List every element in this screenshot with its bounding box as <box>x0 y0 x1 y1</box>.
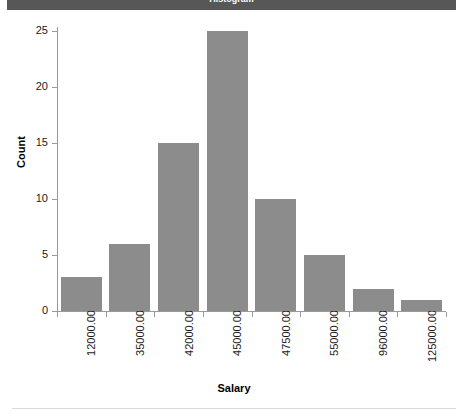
histogram-bar <box>353 289 394 311</box>
x-tick-label: 47500.00 <box>281 310 292 380</box>
x-axis-title: Salary <box>0 382 468 394</box>
x-tick-label: 45000.00 <box>232 310 243 380</box>
x-tick-mark <box>300 312 301 317</box>
histogram-bar <box>109 244 150 311</box>
y-tick-label: 10 <box>18 193 48 204</box>
histogram-bar <box>207 31 248 311</box>
chart-title: Histogram <box>7 0 456 4</box>
histogram-bar <box>304 255 345 311</box>
y-tick-label: 20 <box>18 81 48 92</box>
chart-header-bar: Histogram <box>7 0 456 10</box>
x-tick-label: 125000.00 <box>427 310 438 380</box>
x-tick-mark <box>446 312 447 317</box>
y-axis-title: Count <box>15 122 27 182</box>
y-tick-label: 25 <box>18 25 48 36</box>
histogram-bar <box>255 199 296 311</box>
plot-area <box>57 31 446 311</box>
histogram-bar <box>401 300 442 311</box>
x-tick-label: 96000.00 <box>378 310 389 380</box>
x-tick-label: 42000.00 <box>184 310 195 380</box>
histogram-chart: 0510152025 12000.0035000.0042000.0045000… <box>0 10 468 418</box>
x-tick-mark <box>57 312 58 317</box>
footer-divider <box>12 408 456 409</box>
histogram-bar <box>61 277 102 311</box>
x-tick-mark <box>154 312 155 317</box>
x-tick-mark <box>397 312 398 317</box>
y-tick-label: 5 <box>18 249 48 260</box>
x-tick-mark <box>203 312 204 317</box>
x-tick-label: 55000.00 <box>329 310 340 380</box>
histogram-bar <box>158 143 199 311</box>
x-tick-mark <box>349 312 350 317</box>
x-tick-label: 35000.00 <box>135 310 146 380</box>
x-tick-label: 12000.00 <box>86 310 97 380</box>
x-tick-mark <box>252 312 253 317</box>
y-tick-label: 0 <box>18 305 48 316</box>
x-tick-mark <box>106 312 107 317</box>
